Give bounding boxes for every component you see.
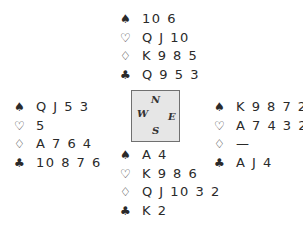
south-spades: ♠A 4: [120, 146, 221, 165]
heart-icon: ♡: [214, 117, 236, 136]
south-hearts: ♡K 9 8 6: [120, 165, 221, 184]
north-hearts: ♡Q J 10: [120, 29, 200, 48]
compass-west: W: [137, 108, 148, 119]
west-diamonds: ♢A 7 6 4: [14, 135, 102, 154]
heart-icon: ♡: [120, 165, 142, 184]
diamond-icon: ♢: [14, 135, 36, 154]
east-diamonds: ♢—: [214, 135, 303, 154]
spade-icon: ♠: [214, 98, 236, 117]
east-clubs: ♣A J 4: [214, 154, 303, 173]
south-hand: ♠A 4 ♡K 9 8 6 ♢Q J 10 3 2 ♣K 2: [120, 146, 221, 220]
east-spades: ♠K 9 8 7 2: [214, 98, 303, 117]
north-clubs: ♣Q 9 5 3: [120, 66, 200, 85]
east-hearts: ♡A 7 4 3 2: [214, 117, 303, 136]
spade-icon: ♠: [14, 98, 36, 117]
south-clubs: ♣K 2: [120, 202, 221, 221]
diamond-icon: ♢: [120, 47, 142, 66]
compass-east: E: [168, 111, 176, 122]
south-diamonds: ♢Q J 10 3 2: [120, 183, 221, 202]
club-icon: ♣: [14, 154, 36, 173]
north-hand: ♠10 6 ♡Q J 10 ♢K 9 8 5 ♣Q 9 5 3: [120, 10, 200, 84]
heart-icon: ♡: [14, 117, 36, 136]
heart-icon: ♡: [120, 29, 142, 48]
club-icon: ♣: [120, 66, 142, 85]
east-hand: ♠K 9 8 7 2 ♡A 7 4 3 2 ♢— ♣A J 4: [214, 98, 303, 172]
compass-box: N W E S: [131, 90, 180, 142]
west-hand: ♠Q J 5 3 ♡5 ♢A 7 6 4 ♣10 8 7 6: [14, 98, 102, 172]
north-spades: ♠10 6: [120, 10, 200, 29]
compass-north: N: [151, 94, 160, 105]
compass-south: S: [152, 125, 159, 136]
spade-icon: ♠: [120, 10, 142, 29]
club-icon: ♣: [120, 202, 142, 221]
diamond-icon: ♢: [120, 183, 142, 202]
west-hearts: ♡5: [14, 117, 102, 136]
west-spades: ♠Q J 5 3: [14, 98, 102, 117]
north-diamonds: ♢K 9 8 5: [120, 47, 200, 66]
west-clubs: ♣10 8 7 6: [14, 154, 102, 173]
spade-icon: ♠: [120, 146, 142, 165]
